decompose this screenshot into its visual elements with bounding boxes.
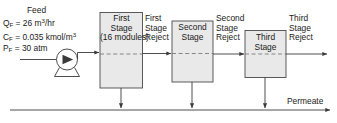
first-stage-label-line3: (16 modules) <box>100 33 143 43</box>
second-stage-label: Second Stage <box>172 23 213 42</box>
third-stage-label: Third Stage <box>245 33 286 52</box>
second-stage-reject-line3: Reject <box>216 33 244 43</box>
second-stage-label-line2: Stage <box>172 33 213 43</box>
feed-flowrate-line: QF = 26 m3/hr <box>3 16 76 30</box>
feed-concentration-unit: kmol/m <box>46 32 73 42</box>
feed-flowrate-subscript: F <box>10 21 14 28</box>
feed-concentration-unit-exp: 3 <box>73 31 76 38</box>
feed-flowrate-unit-tail: /hr <box>45 18 55 28</box>
third-stage-label-line2: Stage <box>245 43 286 53</box>
first-stage-reject-line3: Reject <box>145 33 169 43</box>
permeate-label: Permeate <box>287 97 323 106</box>
feed-pressure-unit: atm <box>34 43 48 53</box>
first-stage-label: First Stage (16 modules) <box>100 14 143 43</box>
first-stage-reject-label: First Stage Reject <box>145 14 169 43</box>
feed-concentration-subscript: F <box>9 35 13 42</box>
third-stage-reject-line3: Reject <box>289 33 313 43</box>
feed-concentration-line: CF = 0.035 kmol/m3 <box>3 30 76 44</box>
feed-pressure-subscript: F <box>9 46 13 53</box>
feed-pressure-line: PF = 30 atm <box>3 44 76 55</box>
feed-flowrate-value: 26 <box>23 18 32 28</box>
feed-concentration-value: 0.035 <box>22 32 43 42</box>
second-stage-reject-label: Second Stage Reject <box>216 14 244 43</box>
feed-pressure-value: 30 <box>22 43 31 53</box>
third-stage-reject-label: Third Stage Reject <box>289 14 313 43</box>
feed-parameters: QF = 26 m3/hr CF = 0.035 kmol/m3 PF = 30… <box>3 16 76 55</box>
process-flow-diagram: Feed QF = 26 m3/hr CF = 0.035 kmol/m3 PF… <box>0 0 337 123</box>
feed-title: Feed <box>27 6 46 15</box>
